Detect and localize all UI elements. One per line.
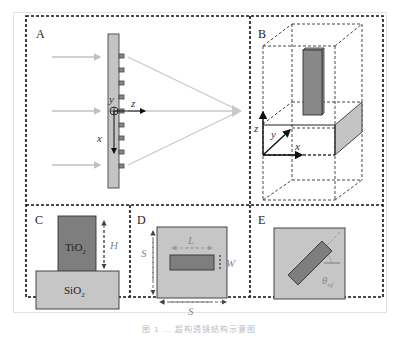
period-label-horizontal: S — [188, 305, 194, 317]
figure-caption: 图 1 … 超构透镜结构示意图 — [0, 323, 398, 334]
period-label-vertical: S — [141, 247, 147, 259]
length-label: L — [187, 234, 194, 246]
panel-d: D S S L W — [137, 213, 236, 317]
panel-b-label: B — [258, 27, 266, 41]
axis-label-z: z — [253, 122, 259, 134]
axis-label-x: x — [294, 140, 300, 152]
focal-point-arrow-icon — [232, 105, 242, 117]
panel-a: A y z x — [36, 27, 242, 188]
panel-d-label: D — [137, 213, 146, 227]
panel-c: C TiO2 SiO2 H — [35, 213, 119, 309]
panel-b: B z — [253, 24, 362, 200]
width-label: W — [226, 257, 236, 269]
axis-label-x: x — [96, 132, 102, 144]
axis-label-z: z — [130, 97, 136, 109]
pillar-top-view — [170, 255, 214, 270]
substrate-block — [335, 102, 362, 155]
panel-e: E θnf — [258, 213, 345, 299]
panel-a-label: A — [36, 27, 45, 41]
height-label: H — [109, 239, 119, 251]
nanopillar-3d — [303, 50, 322, 115]
panel-e-label: E — [258, 213, 265, 227]
metalens-diagram: A y z x B — [0, 0, 398, 338]
axis-label-y: y — [108, 93, 114, 105]
axis-label-y: y — [270, 128, 276, 140]
panel-c-label: C — [35, 213, 43, 227]
